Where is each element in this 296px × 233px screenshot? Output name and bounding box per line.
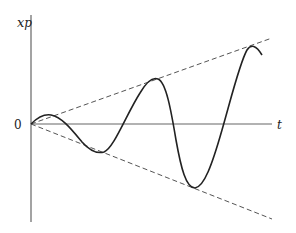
resonance-diagram: xp 0 t	[0, 0, 296, 233]
y-axis-label: xp	[17, 15, 32, 30]
response-curve	[31, 46, 262, 188]
lower-envelope	[31, 124, 272, 219]
t-axis-label: t	[277, 118, 282, 132]
origin-label: 0	[14, 118, 22, 132]
